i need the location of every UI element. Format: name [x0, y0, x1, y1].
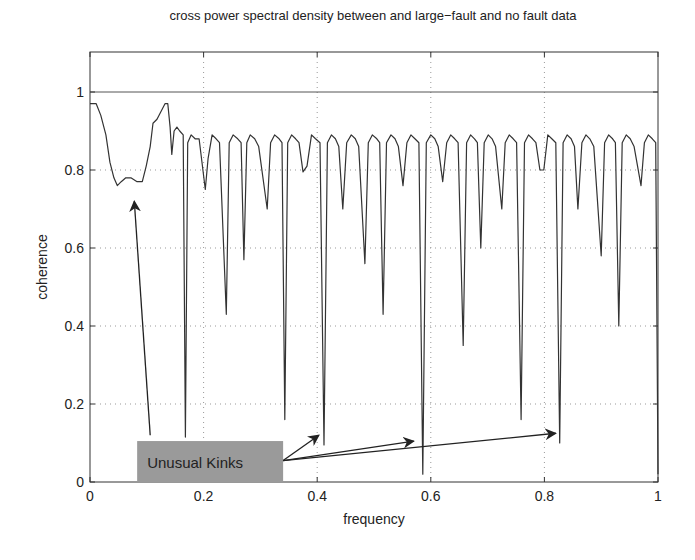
chart-title: cross power spectral density between and… [169, 8, 577, 23]
annotation-text: Unusual Kinks [147, 454, 243, 471]
annotation-arrow [283, 435, 319, 460]
y-tick-label: 0.4 [65, 318, 85, 334]
x-tick-label: 1 [654, 488, 662, 504]
annotation-arrow [283, 441, 414, 461]
coherence-chart: cross power spectral density between and… [0, 0, 695, 560]
axis-ticks: 00.20.40.60.8100.20.40.60.81 [65, 52, 663, 504]
y-tick-label: 1 [76, 84, 84, 100]
y-tick-label: 0 [76, 474, 84, 490]
annotation-unusual-kinks: Unusual Kinks [134, 201, 555, 482]
x-tick-label: 0.6 [421, 488, 441, 504]
y-tick-label: 0.2 [65, 396, 85, 412]
annotation-arrow [134, 201, 150, 435]
y-tick-label: 0.8 [65, 162, 85, 178]
y-tick-label: 0.6 [65, 240, 85, 256]
x-axis-label: frequency [343, 511, 404, 527]
x-tick-label: 0.8 [535, 488, 555, 504]
x-tick-label: 0.4 [307, 488, 327, 504]
y-axis-label: coherence [34, 234, 50, 300]
grid-lines [90, 52, 658, 482]
x-tick-label: 0 [86, 488, 94, 504]
x-tick-label: 0.2 [194, 488, 214, 504]
coherence-line [90, 104, 658, 475]
plot-frame [90, 52, 658, 482]
